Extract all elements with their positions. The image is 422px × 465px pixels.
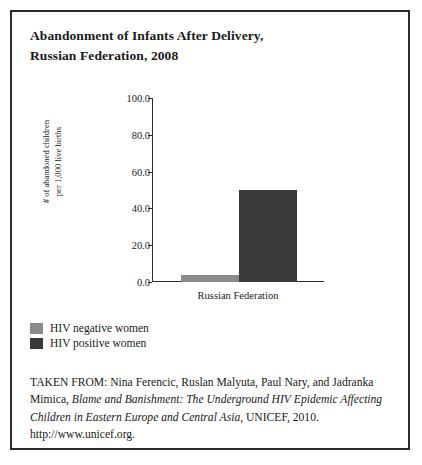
figure-title-line-1: Abandonment of Infants After Delivery, (30, 26, 380, 46)
y-tick-label: 60.0 (108, 166, 150, 177)
legend-swatch-1 (30, 338, 43, 349)
source-citation: TAKEN FROM: Nina Ferencic, Ruslan Malyut… (30, 374, 398, 444)
y-tick-mark (148, 172, 152, 173)
legend-item-0: HIV negative women (30, 322, 360, 334)
y-tick-mark (148, 282, 152, 283)
y-tick-label: 20.0 (108, 240, 150, 251)
chart-plot-area: # of abandoned children per 1,000 live b… (12, 90, 412, 310)
y-axis-title-line-1: # of abandoned children (41, 87, 53, 237)
bar-1 (239, 190, 297, 282)
y-tick-label: 0.0 (108, 277, 150, 288)
y-tick-mark (148, 135, 152, 136)
y-tick-mark (148, 98, 152, 99)
y-axis-tick-labels: 0.020.040.060.080.0100.0 (108, 90, 150, 282)
figure-title-line-2: Russian Federation, 2008 (30, 46, 380, 66)
y-tick-mark (148, 208, 152, 209)
x-axis-category-label: Russian Federation (152, 290, 324, 301)
y-tick-label: 100.0 (108, 93, 150, 104)
y-axis-title-line-2: per 1,000 live births (53, 87, 65, 237)
source-work-title-part-1: Blame and Banishment: The Underground HI… (72, 393, 291, 406)
figure-title: Abandonment of Infants After Delivery, R… (30, 26, 380, 65)
y-axis-title: # of abandoned children per 1,000 live b… (41, 87, 64, 237)
y-tick-mark (148, 245, 152, 246)
chart-legend: HIV negative womenHIV positive women (30, 322, 360, 352)
legend-item-1: HIV positive women (30, 337, 360, 349)
legend-label-1: HIV positive women (50, 337, 146, 349)
figure-panel: Abandonment of Infants After Delivery, R… (10, 10, 410, 450)
source-intro: TAKEN FROM: Nina Ferencic, Ruslan Malyut… (30, 376, 329, 389)
bar-group (153, 98, 324, 282)
y-tick-label: 40.0 (108, 203, 150, 214)
bar-0 (181, 275, 239, 282)
legend-swatch-0 (30, 323, 43, 334)
legend-label-0: HIV negative women (50, 322, 149, 334)
y-tick-label: 80.0 (108, 129, 150, 140)
